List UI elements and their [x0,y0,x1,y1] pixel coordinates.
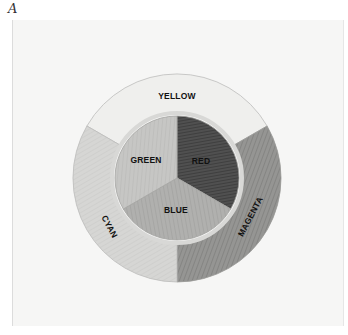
color-wheel: YELLOW GREEN RED BLUE CYAN MAGENTA [0,0,348,335]
figure: A [0,0,348,335]
label-green: GREEN [130,155,161,165]
label-blue: BLUE [164,205,188,215]
label-yellow: YELLOW [158,91,196,101]
label-red: RED [192,156,211,166]
